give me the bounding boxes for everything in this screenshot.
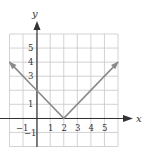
x-axis-label: x bbox=[136, 113, 142, 124]
y-tick-label: 4 bbox=[28, 57, 33, 67]
absolute-value-graph: x y −1 1 2 3 4 5 5 4 3 1 −1 bbox=[0, 0, 145, 157]
y-tick-label: 3 bbox=[28, 71, 33, 81]
y-tick-label: 5 bbox=[28, 43, 33, 53]
y-tick-label: 1 bbox=[28, 99, 33, 109]
x-tick-label: 2 bbox=[62, 123, 67, 133]
x-axis-arrow-icon bbox=[123, 115, 133, 122]
x-tick-label: 4 bbox=[89, 123, 94, 133]
y-axis-arrow-icon bbox=[34, 21, 41, 30]
x-tick-label: 3 bbox=[75, 123, 80, 133]
y-tick-label: −1 bbox=[24, 128, 37, 138]
x-tick-label: 5 bbox=[102, 123, 107, 133]
x-tick-label: 1 bbox=[48, 123, 53, 133]
y-axis-label: y bbox=[31, 8, 38, 19]
